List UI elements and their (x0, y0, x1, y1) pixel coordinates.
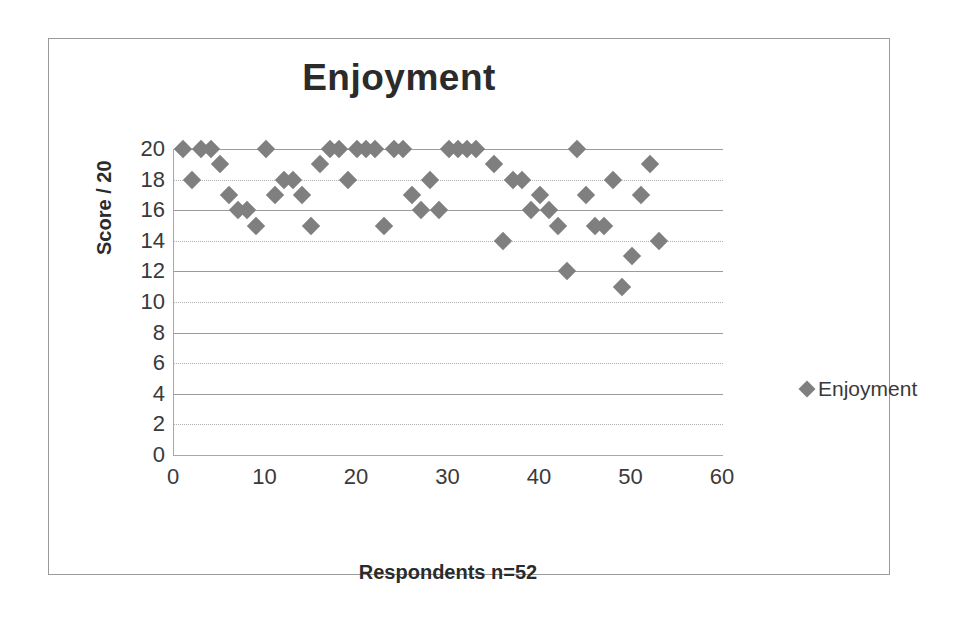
data-point (622, 247, 640, 265)
y-tick-label: 12 (141, 258, 165, 284)
y-tick-label: 6 (153, 350, 165, 376)
y-tick-label: 18 (141, 167, 165, 193)
data-point (494, 232, 512, 250)
data-point (650, 232, 668, 250)
data-point (421, 170, 439, 188)
data-point (604, 170, 622, 188)
data-point (293, 186, 311, 204)
chart-frame: Enjoyment Score / 20 02468101214161820 0… (48, 38, 890, 575)
data-point (558, 262, 576, 280)
x-axis-title: Respondents n=52 (173, 561, 723, 584)
data-point (375, 216, 393, 234)
y-tick-label: 8 (153, 320, 165, 346)
data-point (174, 140, 192, 158)
x-tick-label: 0 (167, 464, 179, 490)
data-point (549, 216, 567, 234)
data-point (531, 186, 549, 204)
y-tick-label: 10 (141, 289, 165, 315)
gridline (174, 333, 723, 334)
x-axis-tick-labels: 0102030405060 (173, 464, 723, 504)
data-point (485, 155, 503, 173)
data-point (641, 155, 659, 173)
gridline (174, 302, 723, 303)
gridline (174, 241, 723, 242)
data-point (183, 170, 201, 188)
data-point (339, 170, 357, 188)
chart-title: Enjoyment (49, 57, 749, 99)
gridline (174, 210, 723, 211)
y-tick-label: 2 (153, 411, 165, 437)
y-tick-label: 16 (141, 197, 165, 223)
x-tick-label: 10 (252, 464, 276, 490)
y-tick-label: 14 (141, 228, 165, 254)
y-axis-tick-labels: 02468101214161820 (109, 149, 165, 456)
data-point (220, 186, 238, 204)
y-tick-label: 0 (153, 442, 165, 468)
x-tick-label: 30 (435, 464, 459, 490)
chart-legend: Enjoyment (801, 377, 917, 401)
data-point (522, 201, 540, 219)
y-tick-label: 4 (153, 381, 165, 407)
data-point (211, 155, 229, 173)
gridline (174, 180, 723, 181)
x-tick-label: 20 (344, 464, 368, 490)
data-point (311, 155, 329, 173)
gridline (174, 424, 723, 425)
gridline (174, 271, 723, 272)
data-point (412, 201, 430, 219)
diamond-marker-icon (799, 381, 816, 398)
legend-label: Enjoyment (818, 377, 917, 401)
y-tick-label: 20 (141, 136, 165, 162)
data-point (631, 186, 649, 204)
gridline (174, 363, 723, 364)
x-tick-label: 50 (618, 464, 642, 490)
data-point (577, 186, 595, 204)
data-point (256, 140, 274, 158)
data-point (247, 216, 265, 234)
plot-area (173, 149, 723, 456)
x-tick-label: 60 (710, 464, 734, 490)
data-point (302, 216, 320, 234)
data-point (265, 186, 283, 204)
data-point (540, 201, 558, 219)
data-point (613, 277, 631, 295)
x-tick-label: 40 (527, 464, 551, 490)
data-point (567, 140, 585, 158)
data-point (403, 186, 421, 204)
gridline (174, 394, 723, 395)
data-point (430, 201, 448, 219)
chart-page: Enjoyment Score / 20 02468101214161820 0… (0, 0, 956, 628)
